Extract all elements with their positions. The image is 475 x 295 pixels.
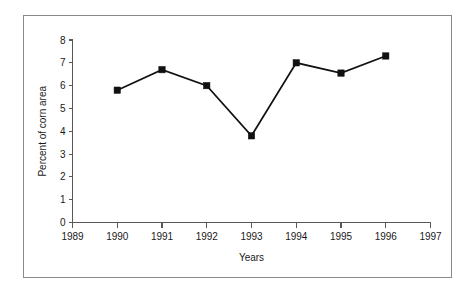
y-axis-tick-label: 4 [60, 126, 66, 137]
x-axis-tick-label: 1990 [106, 231, 129, 242]
data-point-marker [383, 53, 389, 59]
x-axis-title: Years [239, 252, 264, 263]
data-point-marker [159, 66, 165, 72]
data-point-marker [114, 87, 120, 93]
y-axis-tick-label: 5 [60, 103, 66, 114]
x-axis-tick-label: 1991 [151, 231, 174, 242]
data-point-marker [338, 70, 344, 76]
data-point-marker [248, 133, 254, 139]
x-axis-tick-label: 1994 [285, 231, 308, 242]
y-axis-title: Percent of corn area [37, 86, 48, 177]
y-axis-tick-label: 7 [60, 57, 66, 68]
x-axis-tick-label: 1995 [330, 231, 353, 242]
figure-canvas: 0123456781989199019911992199319941995199… [0, 0, 475, 295]
line-chart: 0123456781989199019911992199319941995199… [0, 0, 475, 295]
y-axis-tick-label: 6 [60, 80, 66, 91]
x-axis-tick-label: 1992 [196, 231, 219, 242]
y-axis-tick-label: 8 [60, 35, 66, 46]
data-series-line [117, 56, 386, 136]
data-point-marker [204, 82, 210, 88]
x-axis-tick-label: 1996 [375, 231, 398, 242]
data-point-marker [293, 60, 299, 66]
y-axis-tick-label: 0 [60, 217, 66, 228]
y-axis-tick-label: 2 [60, 171, 66, 182]
y-axis-tick-label: 3 [60, 149, 66, 160]
x-axis-tick-label: 1989 [61, 231, 84, 242]
x-axis-tick-label: 1993 [240, 231, 263, 242]
y-axis-tick-label: 1 [60, 194, 66, 205]
x-axis-tick-label: 1997 [419, 231, 442, 242]
